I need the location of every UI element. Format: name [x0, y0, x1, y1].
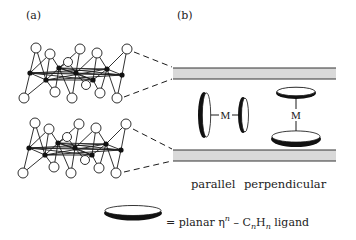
metal-label-perpendicular: M [291, 109, 301, 121]
diagram-canvas: M M [0, 0, 356, 240]
caption-parallel: parallel [191, 177, 235, 191]
cluster-network-bottom [18, 118, 131, 178]
caption-perpendicular: perpendicular [244, 177, 326, 191]
perpendicular-complex: M [271, 87, 321, 147]
ligand-legend-text: = planar ηn – CnHn ligand [166, 214, 309, 231]
surface-bottom [173, 150, 336, 161]
ligand-legend-icon [104, 206, 162, 221]
surface-top [173, 68, 336, 79]
cluster-network-top [19, 43, 132, 103]
parallel-complex: M [198, 92, 249, 138]
zoom-lines [124, 52, 172, 172]
metal-label-parallel: M [221, 109, 231, 121]
